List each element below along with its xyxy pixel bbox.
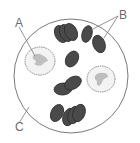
label-a: A (15, 17, 23, 29)
white-blood-cell-left (25, 47, 55, 75)
white-blood-cell-right (87, 66, 115, 92)
label-c: C (15, 121, 24, 133)
label-b: B (119, 9, 127, 21)
